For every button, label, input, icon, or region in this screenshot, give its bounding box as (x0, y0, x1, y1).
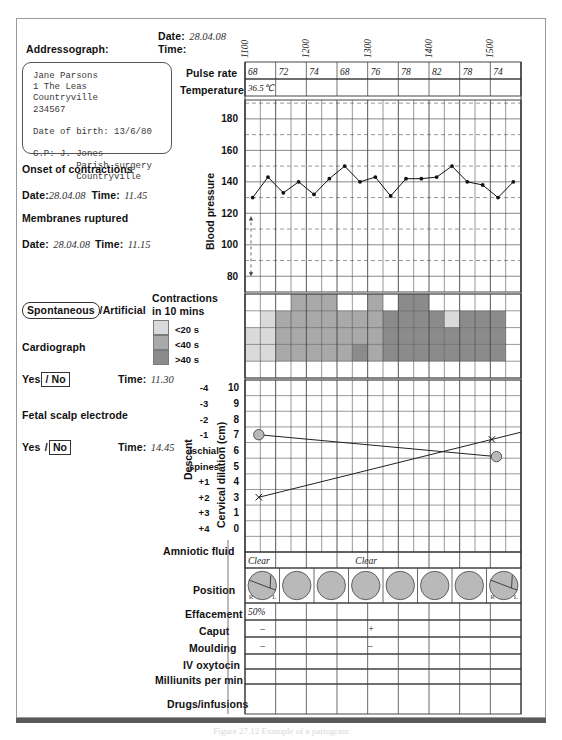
contraction-cell-r1-c1 (260, 311, 275, 328)
bp-point-7 (358, 180, 362, 184)
descent-tick-2: -2 (200, 414, 208, 425)
descent-tick-8: +3 (199, 507, 210, 518)
time-tick-1400: 1400 (424, 39, 434, 58)
bp-point-14 (465, 180, 469, 184)
pulse-rate-value-5: 78 (401, 67, 411, 77)
dilation-ytick-1: 1 (233, 507, 239, 518)
contraction-cell-r1-c6 (337, 311, 352, 328)
amniotic-fluid-value-0: Clear (248, 556, 270, 566)
position-circle-3 (352, 571, 380, 599)
contraction-cell-r1-c4 (306, 311, 321, 328)
bp-point-12 (435, 175, 439, 179)
position-label-R-0: R (249, 593, 254, 601)
effacement-row (245, 603, 521, 620)
caput-row (245, 620, 521, 637)
contraction-cell-r2-c9 (383, 328, 398, 345)
bp-point-1 (266, 175, 270, 179)
position-label-R-7: R (490, 593, 495, 601)
contraction-cell-r1-c13 (444, 311, 459, 328)
position-circle-6 (455, 571, 483, 599)
descent-tick-4: Ischial (189, 445, 219, 456)
bp-ytick-140: 140 (221, 176, 238, 187)
contraction-cell-r1-c2 (276, 311, 291, 328)
dilation-ytick-9: 9 (233, 398, 239, 409)
dilation-ytick-5: 5 (233, 461, 239, 472)
caput-row-value-0: – (259, 624, 265, 634)
descent-tick-3: -1 (200, 429, 209, 440)
contraction-cell-r3-c1 (260, 344, 275, 361)
position-circle-2 (317, 571, 345, 599)
contraction-cell-r3-c16 (490, 344, 505, 361)
descent-tick-0: -4 (200, 382, 209, 393)
position-circle-4 (386, 571, 414, 599)
dilation-ytick-10: 10 (228, 382, 240, 393)
position-label-L-0: L (272, 593, 276, 601)
contraction-cell-r0-c4 (306, 294, 321, 311)
pulse-rate-value-6: 82 (432, 67, 442, 77)
drugs-infusions-row (245, 684, 521, 714)
dilation-ytick-8: 8 (233, 414, 239, 425)
amniotic-fluid-row (245, 552, 521, 568)
dilation-ytick-4: 4 (233, 476, 239, 487)
descent-marker-1 (491, 451, 501, 461)
contraction-cell-r2-c1 (260, 328, 275, 345)
bp-point-16 (496, 196, 500, 200)
descent-tick-9: +4 (199, 523, 211, 534)
bp-point-13 (450, 164, 454, 168)
contraction-cell-r2-c16 (490, 328, 505, 345)
descent-marker-0 (254, 430, 264, 440)
bp-ytick-180: 180 (221, 113, 238, 124)
dilation-ytick-6: 6 (233, 445, 239, 456)
pulse-rate-value-2: 74 (309, 67, 319, 77)
position-label-L-7: L (514, 593, 518, 601)
contraction-cell-r1-c3 (291, 311, 306, 328)
contraction-cell-r3-c0 (245, 344, 260, 361)
bp-ytick-100: 100 (221, 239, 238, 250)
pulse-rate-value-8: 74 (493, 67, 503, 77)
contraction-cell-r2-c13 (444, 328, 459, 345)
contraction-cell-r1-c10 (398, 311, 413, 328)
contraction-cell-r2-c3 (291, 328, 306, 345)
contraction-cell-r1-c9 (383, 311, 398, 328)
contraction-cell-r3-c5 (322, 344, 337, 361)
contraction-cell-r2-c14 (460, 328, 475, 345)
dilation-ytick-0: 0 (233, 523, 239, 534)
bp-point-5 (327, 177, 331, 181)
descent-tick-1: -3 (200, 398, 208, 409)
time-tick-1300: 1300 (363, 39, 373, 58)
contraction-cell-r2-c8 (368, 328, 383, 345)
bp-point-0 (251, 196, 255, 200)
bp-point-8 (373, 175, 377, 179)
contraction-cell-r2-c10 (398, 328, 413, 345)
temperature-row (245, 79, 521, 96)
contraction-cell-r0-c3 (291, 294, 306, 311)
contraction-cell-r3-c15 (475, 344, 490, 361)
contraction-cell-r3-c13 (444, 344, 459, 361)
contraction-cell-r2-c2 (276, 328, 291, 345)
milliunits-row (245, 669, 521, 684)
bp-point-15 (481, 183, 485, 187)
partogram-chart: 1100120013001400150068727468767882787436… (0, 0, 562, 740)
contraction-cell-r2-c6 (337, 328, 352, 345)
partogram-page: Addressograph: Jane Parsons 1 The Leas C… (0, 0, 562, 740)
contraction-cell-r2-c15 (475, 328, 490, 345)
contraction-cell-r2-c12 (429, 328, 444, 345)
contraction-cell-r2-c0 (245, 328, 260, 345)
moulding-row (245, 637, 521, 654)
moulding-row-value-0: – (259, 641, 265, 651)
bp-point-6 (343, 164, 347, 168)
contraction-cell-r2-c7 (352, 328, 367, 345)
contraction-cell-r3-c12 (429, 344, 444, 361)
moulding-row-value-1: – (367, 641, 373, 651)
contraction-cell-r3-c10 (398, 344, 413, 361)
bp-point-17 (511, 180, 515, 184)
contraction-cell-r2-c5 (322, 328, 337, 345)
contraction-cell-r0-c10 (398, 294, 413, 311)
pulse-rate-value-0: 68 (248, 67, 258, 77)
pulse-rate-value-4: 76 (371, 67, 381, 77)
bp-point-3 (297, 180, 301, 184)
bp-point-11 (419, 177, 423, 181)
caput-row-value-1: + (368, 624, 374, 634)
pulse-rate-value-1: 72 (279, 67, 289, 77)
dilation-ytick-7: 7 (233, 429, 239, 440)
